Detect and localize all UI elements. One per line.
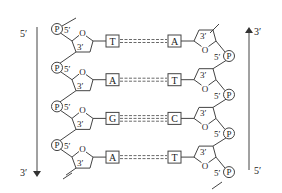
left-bottom-label: 3′ — [20, 167, 27, 178]
right-bottom-tail — [212, 182, 222, 189]
carbon-3-label: 3′ — [77, 119, 84, 129]
oxygen-label: O — [202, 161, 209, 171]
bond — [216, 118, 225, 129]
phosphate-label: P — [226, 167, 231, 177]
dna-diagram: 5′ 3′ 3′ 5′ P5′O3′TAO3′P5′P5′O3′ATO3′P5′… — [0, 0, 282, 193]
phosphate-label: P — [54, 140, 59, 150]
carbon-5-label: 5′ — [64, 102, 71, 112]
carbon-5-label: 5′ — [214, 52, 221, 62]
right-top-label: 3′ — [254, 26, 261, 37]
base-label-right: T — [171, 75, 177, 86]
oxygen-label: O — [202, 45, 209, 55]
oxygen-label: O — [79, 105, 86, 115]
bond — [216, 157, 225, 168]
carbon-5-label: 5′ — [214, 168, 221, 178]
carbon-3-label: 3′ — [77, 158, 84, 168]
carbon-3-label: 3′ — [200, 70, 207, 80]
oxygen-label: O — [202, 84, 209, 94]
phosphate-label: P — [54, 24, 59, 34]
base-label-right: C — [171, 113, 178, 124]
base-pair-row: P5′O3′ATO3′P5′ — [52, 138, 235, 178]
bond — [216, 41, 225, 52]
right-bottom-label: 5′ — [254, 165, 261, 176]
carbon-3-label: 3′ — [77, 42, 84, 52]
base-label-right: A — [171, 36, 179, 47]
carbon-5-label: 5′ — [64, 64, 71, 74]
left-strand-direction: 5′ 3′ — [20, 27, 37, 178]
phosphate-label: P — [54, 102, 59, 112]
oxygen-label: O — [79, 67, 86, 77]
carbon-3-label: 3′ — [200, 31, 207, 41]
base-pair-row: P5′O3′ATO3′P5′ — [52, 61, 235, 102]
carbon-3-label: 3′ — [200, 147, 207, 157]
right-strand-direction: 3′ 5′ — [249, 26, 261, 176]
oxygen-label: O — [79, 28, 86, 38]
carbon-5-label: 5′ — [214, 129, 221, 139]
phosphate-label: P — [226, 129, 231, 139]
backbone-tail — [213, 24, 219, 30]
base-label-left: A — [109, 75, 117, 86]
phosphate-label: P — [226, 51, 231, 61]
carbon-5-label: 5′ — [64, 25, 71, 35]
left-top-label: 5′ — [20, 28, 27, 39]
base-label-left: G — [109, 113, 116, 124]
carbon-3-label: 3′ — [200, 108, 207, 118]
oxygen-label: O — [79, 144, 86, 154]
carbon-5-label: 5′ — [214, 91, 221, 101]
backbone-bond — [60, 129, 76, 140]
backbone-bond — [60, 52, 76, 63]
carbon-3-label: 3′ — [77, 81, 84, 91]
base-label-right: T — [171, 152, 177, 163]
base-label-left: A — [109, 152, 117, 163]
phosphate-label: P — [54, 63, 59, 73]
base-label-left: T — [109, 36, 115, 47]
backbone-bond — [60, 91, 76, 102]
base-pair-row: P5′O3′TAO3′P5′ — [52, 24, 235, 64]
phosphate-label: P — [226, 90, 231, 100]
oxygen-label: O — [202, 122, 209, 132]
base-pair-row: P5′O3′GCO3′P5′ — [52, 99, 235, 140]
carbon-5-label: 5′ — [64, 141, 71, 151]
bond — [216, 80, 225, 91]
